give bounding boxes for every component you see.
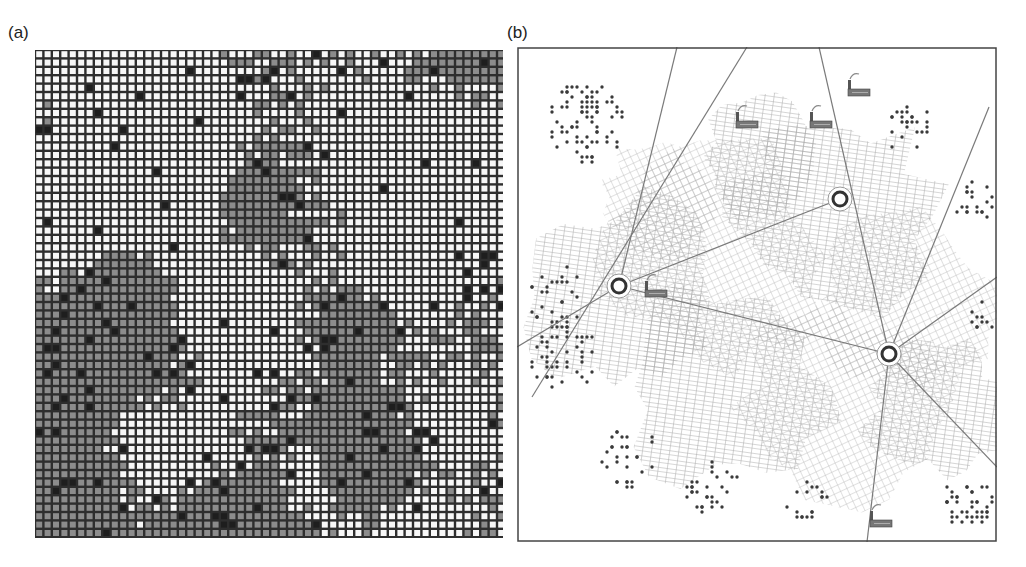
- grid-cell: [339, 228, 345, 234]
- grid-cell: [129, 85, 135, 91]
- grid-cell: [431, 51, 437, 57]
- grid-cell: [330, 446, 336, 452]
- grid-cell: [154, 211, 160, 217]
- grid-cell: [423, 211, 429, 217]
- grid-cell: [431, 160, 437, 166]
- grid-cell: [473, 118, 479, 124]
- grid-cell: [154, 68, 160, 74]
- grid-cell: [229, 463, 235, 469]
- grid-cell: [339, 270, 345, 276]
- grid-cell: [171, 337, 177, 343]
- grid-cell: [78, 295, 84, 301]
- grid-cell: [255, 236, 261, 242]
- grid-cell: [179, 68, 185, 74]
- grid-cell: [439, 421, 445, 427]
- grid-cell: [145, 463, 151, 469]
- grid-cell: [61, 530, 67, 536]
- grid-cell: [229, 202, 235, 208]
- grid-cell: [271, 429, 277, 435]
- grid-cell: [439, 530, 445, 536]
- grid-cell: [347, 505, 353, 511]
- grid-cell: [36, 337, 42, 343]
- grid-cell: [246, 320, 252, 326]
- grid-cell: [397, 286, 403, 292]
- grid-cell: [213, 76, 219, 82]
- grid-cell: [498, 522, 503, 528]
- grid-cell: [498, 244, 503, 250]
- grid-cell: [389, 295, 395, 301]
- grid-cell: [129, 160, 135, 166]
- grid-cell: [498, 186, 503, 192]
- grid-cell: [196, 513, 202, 519]
- grid-cell: [364, 219, 370, 225]
- grid-cell: [498, 480, 503, 486]
- grid-cell: [330, 152, 336, 158]
- grid-cell: [204, 320, 210, 326]
- grid-cell: [204, 387, 210, 393]
- grid-cell: [145, 496, 151, 502]
- grid-cell: [297, 362, 303, 368]
- grid-cell: [381, 219, 387, 225]
- grid-cell: [481, 328, 487, 334]
- grid-cell: [406, 505, 412, 511]
- grid-cell: [171, 102, 177, 108]
- grid-cell: [187, 144, 193, 150]
- grid-cell: [397, 135, 403, 141]
- grid-cell: [414, 454, 420, 460]
- grid-cell: [129, 135, 135, 141]
- grid-cell: [112, 345, 118, 351]
- grid-cell: [145, 312, 151, 318]
- grid-cell: [221, 496, 227, 502]
- grid-cell: [271, 253, 277, 259]
- grid-cell: [45, 295, 51, 301]
- grid-cell: [154, 127, 160, 133]
- grid-cell: [490, 253, 496, 259]
- grid-cell: [213, 110, 219, 116]
- grid-cell: [87, 236, 93, 242]
- grid-cell: [246, 496, 252, 502]
- grid-cell: [280, 253, 286, 259]
- grid-cell: [238, 152, 244, 158]
- grid-cell: [439, 194, 445, 200]
- grid-cell: [473, 186, 479, 192]
- grid-cell: [145, 202, 151, 208]
- grid-cell: [112, 244, 118, 250]
- grid-cell: [204, 530, 210, 536]
- grid-cell: [87, 51, 93, 57]
- grid-cell: [313, 144, 319, 150]
- grid-cell: [355, 152, 361, 158]
- urban-network-map: [517, 47, 997, 542]
- grid-cell: [347, 244, 353, 250]
- grid-cell: [297, 244, 303, 250]
- grid-cell: [406, 412, 412, 418]
- grid-cell: [229, 110, 235, 116]
- grid-cell: [204, 362, 210, 368]
- grid-cell: [179, 278, 185, 284]
- grid-cell: [439, 60, 445, 66]
- grid-cell: [263, 312, 269, 318]
- grid-cell: [145, 505, 151, 511]
- grid-cell: [36, 362, 42, 368]
- grid-cell: [481, 286, 487, 292]
- grid-cell: [263, 337, 269, 343]
- grid-cell: [255, 102, 261, 108]
- grid-cell: [448, 337, 454, 343]
- grid-cell: [364, 278, 370, 284]
- grid-cell: [53, 312, 59, 318]
- grid-cell: [448, 135, 454, 141]
- grid-cell: [414, 412, 420, 418]
- grid-cell: [179, 362, 185, 368]
- grid-cell: [213, 127, 219, 133]
- grid-cell: [297, 530, 303, 536]
- grid-cell: [473, 463, 479, 469]
- grid-cell: [120, 312, 126, 318]
- grid-cell: [36, 194, 42, 200]
- grid-cell: [196, 530, 202, 536]
- grid-cell: [229, 412, 235, 418]
- grid-cell: [481, 354, 487, 360]
- grid-cell: [364, 488, 370, 494]
- grid-cell: [330, 253, 336, 259]
- grid-cell: [255, 228, 261, 234]
- grid-cell: [280, 328, 286, 334]
- grid-cell: [154, 345, 160, 351]
